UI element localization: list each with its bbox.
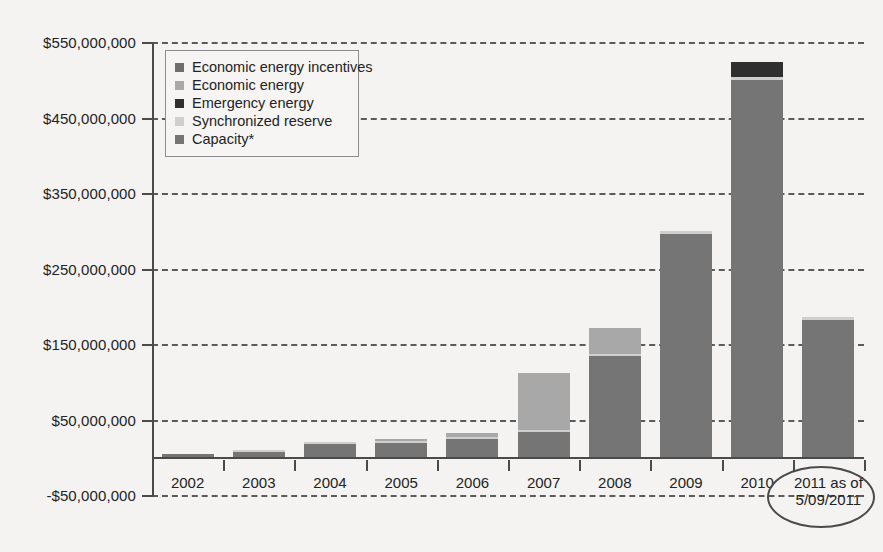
bar-2009[interactable]: [660, 231, 712, 457]
bar-segment: [375, 443, 427, 457]
legend-swatch-icon: [175, 135, 184, 144]
legend-swatch-icon: [175, 117, 184, 126]
legend-item[interactable]: Emergency energy: [175, 94, 349, 112]
bar-2011 as of[interactable]: [802, 317, 854, 457]
y-axis-label: $450,000,000: [43, 109, 136, 126]
x-axis-tick: [223, 460, 225, 471]
x-axis-tick: [508, 460, 510, 471]
bar-2003[interactable]: [233, 450, 285, 457]
bar-2008[interactable]: [589, 328, 641, 458]
gridline: [152, 495, 864, 497]
legend-swatch-icon: [175, 63, 184, 72]
bar-2005[interactable]: [375, 439, 427, 458]
legend: Economic energy incentivesEconomic energ…: [165, 50, 359, 157]
legend-swatch-icon: [175, 99, 184, 108]
bar-segment: [162, 454, 214, 457]
x-axis-tick: [294, 460, 296, 471]
x-axis-tick: [579, 460, 581, 471]
legend-item[interactable]: Economic energy incentives: [175, 58, 349, 76]
y-axis-label: $550,000,000: [43, 34, 136, 51]
bar-segment: [731, 80, 783, 458]
x-axis-tick: [864, 460, 866, 471]
x-axis-tick: [722, 460, 724, 471]
bar-segment: [731, 62, 783, 77]
bar-segment: [446, 439, 498, 457]
legend-label: Emergency energy: [192, 95, 314, 111]
legend-label: Synchronized reserve: [192, 113, 332, 129]
y-axis-tick: [142, 495, 154, 497]
y-axis-label: -$50,000,000: [46, 487, 136, 504]
legend-swatch-icon: [175, 81, 184, 90]
legend-item[interactable]: Synchronized reserve: [175, 112, 349, 130]
bar-2006[interactable]: [446, 433, 498, 458]
bar-segment: [518, 432, 570, 458]
y-axis-label: $50,000,000: [51, 411, 136, 428]
bar-2007[interactable]: [518, 373, 570, 457]
x-axis-tick: [366, 460, 368, 471]
legend-label: Economic energy: [192, 77, 304, 93]
stacked-bar-chart: $550,000,000$450,000,000$350,000,000$250…: [0, 0, 883, 552]
x-axis-tick: [152, 460, 154, 471]
bar-segment: [660, 234, 712, 457]
x-axis-tick: [650, 460, 652, 471]
legend-label: Economic energy incentives: [192, 59, 373, 75]
bar-segment: [304, 444, 356, 457]
bar-segment: [518, 373, 570, 430]
y-axis-label: $250,000,000: [43, 260, 136, 277]
bar-segment: [802, 320, 854, 457]
y-axis-label: $350,000,000: [43, 185, 136, 202]
bar-2004[interactable]: [304, 442, 356, 457]
legend-label: Capacity*: [192, 131, 254, 147]
y-axis-label: $150,000,000: [43, 336, 136, 353]
x-axis-tick: [437, 460, 439, 471]
legend-item[interactable]: Economic energy: [175, 76, 349, 94]
bar-segment: [589, 356, 641, 457]
x-axis-label: 2011 as of 5/09/2011: [773, 474, 883, 508]
bar-segment: [589, 328, 641, 354]
legend-item[interactable]: Capacity*: [175, 130, 349, 148]
bar-2002[interactable]: [162, 454, 214, 457]
bar-2010[interactable]: [731, 62, 783, 458]
bar-segment: [233, 452, 285, 457]
x-axis-tick: [793, 460, 795, 471]
